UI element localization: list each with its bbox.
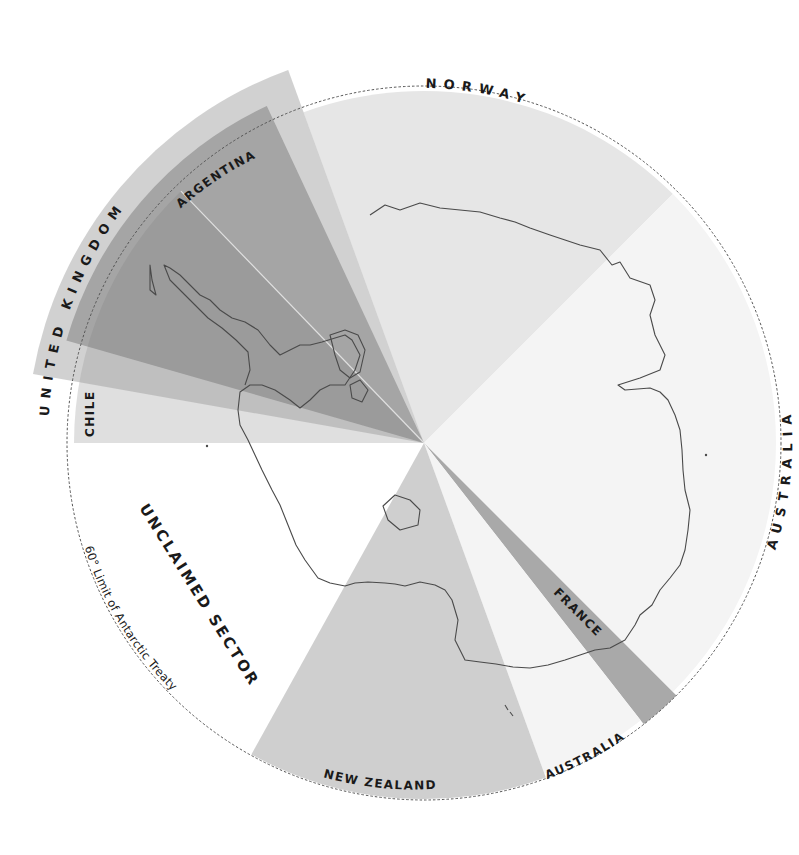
- antarctica-claims-map: UNITED KINGDOM NORWAY ARGENTINA AUSTRALI…: [0, 0, 799, 855]
- label-chile: CHILE: [83, 390, 97, 437]
- label-treaty-limit: 60° Limit of Antarctic Treaty: [82, 544, 181, 693]
- island-dot: [206, 445, 208, 447]
- island-dot: [705, 454, 707, 456]
